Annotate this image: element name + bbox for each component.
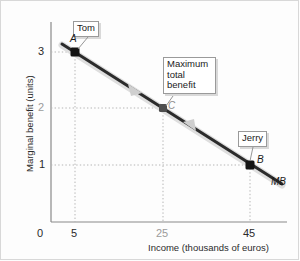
figure-canvas: Tom Maximum total benefit Jerry A C B MB… — [0, 0, 300, 261]
point-marker-C — [159, 104, 167, 112]
y-tick-label-2: 2 — [38, 101, 44, 113]
jerry-callout-label: Jerry — [242, 132, 263, 143]
y-axis-title: Marginal benefit (units) — [24, 75, 35, 172]
leader-line-tom — [78, 37, 88, 49]
curve-label-mb: MB — [271, 176, 286, 187]
x-tick-label-25: 25 — [156, 227, 168, 239]
x-tick-label-5: 5 — [71, 227, 77, 239]
y-tick-label-3: 3 — [38, 45, 44, 57]
point-label-C: C — [168, 100, 175, 111]
x-tick-label-45: 45 — [243, 227, 255, 239]
jerry-callout: Jerry — [238, 131, 267, 147]
tom-callout-label: Tom — [77, 22, 95, 33]
max-benefit-line-1: Maximum — [167, 59, 212, 70]
y-tick-label-1: 1 — [39, 158, 45, 170]
point-marker-B — [246, 161, 255, 170]
x-axis-title: Income (thousands of euros) — [148, 242, 269, 253]
leader-line-jerry — [250, 147, 253, 161]
x-tick-label-0: 0 — [37, 227, 43, 239]
point-label-A: A — [70, 33, 77, 44]
point-label-B: B — [257, 154, 264, 165]
max-benefit-line-3: benefit — [167, 80, 212, 91]
maximum-total-benefit-callout: Maximum total benefit — [163, 57, 216, 94]
